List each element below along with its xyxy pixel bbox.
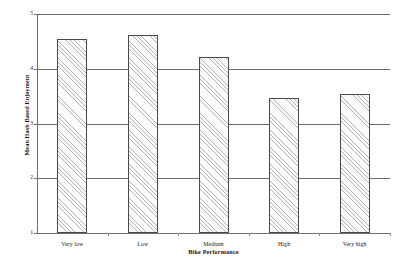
x-tick-label: Medium xyxy=(203,241,224,247)
bar xyxy=(340,94,370,233)
x-tick-label: Low xyxy=(137,241,148,247)
y-tick-label: 3 xyxy=(30,121,33,127)
y-axis-title: Mean Hash Based Enjoyment xyxy=(24,45,30,185)
x-tick-mark xyxy=(178,233,179,236)
bar-chart: Mean Hash Based Enjoyment 12345 Very low… xyxy=(0,0,412,268)
x-tick-label: High xyxy=(278,241,290,247)
y-tick-label: 2 xyxy=(30,175,33,181)
x-axis-title: Bike Performance xyxy=(37,249,390,255)
x-tick-label: Very high xyxy=(343,241,367,247)
x-tick-mark xyxy=(390,233,391,236)
plot-area: 12345 Very lowLowMediumHighVery high xyxy=(37,14,390,233)
bar xyxy=(57,39,87,233)
y-tick-mark xyxy=(34,124,37,125)
y-tick-label: 5 xyxy=(30,11,33,17)
x-tick-mark xyxy=(108,233,109,236)
y-tick-mark xyxy=(34,69,37,70)
y-tick-mark xyxy=(34,178,37,179)
x-tick-mark xyxy=(249,233,250,236)
bar xyxy=(128,35,158,233)
gridline xyxy=(37,14,390,15)
x-tick-mark xyxy=(319,233,320,236)
bar xyxy=(269,98,299,233)
y-tick-mark xyxy=(34,233,37,234)
y-tick-label: 1 xyxy=(30,230,33,236)
y-tick-label: 4 xyxy=(30,66,33,72)
bar xyxy=(199,57,229,233)
y-tick-mark xyxy=(34,14,37,15)
x-tick-label: Very low xyxy=(61,241,83,247)
x-axis-line xyxy=(37,233,390,234)
